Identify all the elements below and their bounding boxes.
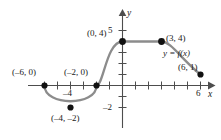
point-neg4-neg2 (67, 104, 73, 110)
function-annotation: y = f(x) (163, 48, 190, 58)
function-graph-figure: y x 5 –2 –4 6 (–6, 0) (–2, 0) (–4, –2) (… (0, 0, 221, 140)
point-neg6-0 (41, 82, 47, 88)
x-tick-label-neg4: –4 (63, 88, 72, 98)
point-6-1 (197, 71, 203, 77)
y-tick-label-neg2: –2 (103, 102, 112, 112)
point-label-neg2-0: (–2, 0) (64, 67, 88, 77)
y-axis-label: y (127, 8, 131, 18)
point-0-4 (119, 38, 126, 45)
point-label-0-4: (0, 4) (87, 28, 107, 38)
y-axis (119, 9, 127, 128)
point-3-4 (158, 38, 165, 45)
point-label-neg4-neg2: (–4, –2) (51, 113, 80, 123)
x-tick-label-6: 6 (196, 88, 201, 98)
x-axis-label: x (208, 89, 212, 99)
point-label-3-4: (3, 4) (166, 33, 186, 43)
point-label-neg6-0: (–6, 0) (12, 67, 36, 77)
point-neg2-0 (93, 82, 99, 88)
point-label-6-1: (6, 1) (178, 62, 198, 72)
y-tick-label-5: 5 (108, 25, 113, 35)
